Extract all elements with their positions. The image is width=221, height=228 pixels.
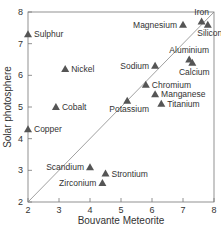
x-axis-title: Bouvante Meteorite <box>78 215 165 226</box>
y-tick-label: 5 <box>18 102 23 112</box>
triangle-marker-icon <box>24 30 32 37</box>
scatter-chart: 23456782345678 SulphurNickelCobaltCopper… <box>0 0 221 228</box>
point-label: Aluminium <box>169 45 209 55</box>
point-label: Magnesium <box>133 20 177 30</box>
x-tick-label: 7 <box>180 205 185 215</box>
data-point: Manganese <box>151 89 206 99</box>
data-point: Copper <box>24 124 62 134</box>
point-label: Silicon <box>197 28 221 38</box>
data-point: Iron <box>194 7 209 25</box>
point-label: Manganese <box>161 89 206 99</box>
y-tick-label: 8 <box>18 7 23 17</box>
triangle-marker-icon <box>151 90 159 97</box>
point-label: Copper <box>34 124 62 134</box>
data-point: Strontium <box>102 169 148 179</box>
triangle-marker-icon <box>157 100 165 107</box>
data-point: Chromium <box>142 80 191 90</box>
x-tick-label: 4 <box>87 205 92 215</box>
y-tick-label: 4 <box>18 134 23 144</box>
point-label: Titanium <box>167 99 199 109</box>
x-tick-label: 3 <box>56 205 61 215</box>
y-tick-label: 3 <box>18 165 23 175</box>
point-label: Sodium <box>120 61 149 71</box>
y-axis-title: Solar photosphere <box>2 66 13 148</box>
triangle-marker-icon <box>179 21 187 28</box>
point-label: Potassium <box>109 104 149 114</box>
point-label: Chromium <box>152 80 191 90</box>
triangle-marker-icon <box>52 103 60 110</box>
data-point: Titanium <box>157 99 199 109</box>
triangle-marker-icon <box>24 125 32 132</box>
point-label: Iron <box>194 7 209 17</box>
point-label: Nickel <box>71 64 94 74</box>
data-point: Scandium <box>46 162 94 172</box>
data-point: Zirconium <box>59 178 106 188</box>
data-points: SulphurNickelCobaltCopperScandiumStronti… <box>24 7 221 189</box>
data-point: Sodium <box>120 61 159 71</box>
y-tick-label: 2 <box>18 197 23 207</box>
data-point: Potassium <box>109 97 149 114</box>
triangle-marker-icon <box>61 65 69 72</box>
triangle-marker-icon <box>102 170 110 177</box>
triangle-marker-icon <box>151 62 159 69</box>
point-label: Zirconium <box>59 178 96 188</box>
triangle-marker-icon <box>86 163 94 170</box>
point-label: Calcium <box>179 67 210 77</box>
point-label: Cobalt <box>62 102 87 112</box>
y-tick-label: 7 <box>18 39 23 49</box>
data-point: Calcium <box>179 59 210 77</box>
data-point: Cobalt <box>52 102 87 112</box>
point-label: Strontium <box>112 169 148 179</box>
data-point: Magnesium <box>133 20 187 30</box>
data-point: Aluminium <box>169 45 209 63</box>
point-label: Scandium <box>46 162 84 172</box>
x-tick-label: 2 <box>25 205 30 215</box>
data-point: Sulphur <box>24 29 63 39</box>
triangle-marker-icon <box>198 18 206 25</box>
x-tick-label: 6 <box>149 205 154 215</box>
point-label: Sulphur <box>34 29 63 39</box>
x-tick-label: 5 <box>118 205 123 215</box>
triangle-marker-icon <box>98 179 106 186</box>
data-point: Nickel <box>61 64 94 74</box>
y-tick-label: 6 <box>18 70 23 80</box>
x-tick-label: 8 <box>211 205 216 215</box>
